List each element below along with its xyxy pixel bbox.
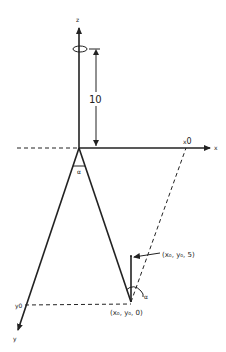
bottom-point-label: (x₀, y₀, 0) <box>110 309 143 317</box>
top-point-label: (x₀, y₀, 5) <box>162 251 195 259</box>
y-axis-label: y <box>13 335 17 343</box>
y0-dashed <box>25 304 131 305</box>
z-axis: z <box>76 16 79 148</box>
origin-to-point-line <box>79 148 131 302</box>
top-angle-label: α <box>77 168 81 175</box>
pointer-arrow <box>134 253 160 257</box>
height-dimension: 10 <box>88 49 102 146</box>
bottom-angle-label: α <box>144 293 148 300</box>
z-axis-label: z <box>76 16 79 23</box>
x-axis: x x0 <box>79 137 218 151</box>
x-axis-label: x <box>214 144 218 151</box>
rotation-ellipse-icon <box>73 46 87 52</box>
point-to-x0-dashed <box>131 148 186 302</box>
y-axis: y y0 <box>13 148 79 343</box>
y0-label: y0 <box>15 302 23 310</box>
coordinate-diagram: z 10 x x0 y y0 α α (x₀, y₀, 5) <box>0 0 226 352</box>
height-label: 10 <box>89 94 102 105</box>
bottom-angle-arc <box>126 287 141 291</box>
x0-label: x0 <box>183 137 192 146</box>
